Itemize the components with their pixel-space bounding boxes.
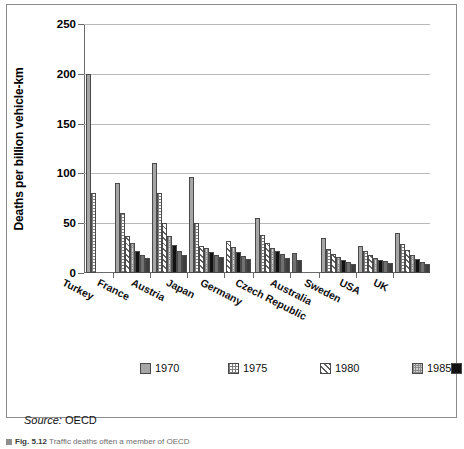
legend-swatch-icon xyxy=(320,363,331,374)
bar-group xyxy=(356,24,393,273)
bar xyxy=(246,259,251,273)
plot-area: 050100150200250 xyxy=(84,24,430,273)
legend-swatch-icon xyxy=(451,363,462,374)
bar-group xyxy=(113,24,150,273)
bar-group xyxy=(393,24,430,273)
y-axis-title-text: Deaths per billion vehicle-km xyxy=(12,67,26,230)
y-axis-tick-label: 150 xyxy=(57,118,76,130)
bar-group xyxy=(290,24,319,273)
legend-swatch-icon xyxy=(412,363,423,374)
bar-group xyxy=(187,24,224,273)
caption-text: Traffic deaths often a member of OECD xyxy=(49,437,190,446)
bar-group xyxy=(150,24,187,273)
caption-marker-icon xyxy=(6,439,12,445)
bar xyxy=(297,260,302,273)
figure-caption: Fig. 5.12 Traffic deaths often a member … xyxy=(6,437,190,446)
legend-label: 1980 xyxy=(335,362,359,374)
source-note: Source: OECD xyxy=(24,414,97,426)
bar-groups xyxy=(84,24,430,273)
y-axis-tick xyxy=(78,273,84,274)
y-axis-tick-label: 50 xyxy=(63,217,76,229)
x-axis-labels: TurkeyFranceAustriaJapanGermanyCzech Rep… xyxy=(84,276,430,336)
bar-group xyxy=(84,24,113,273)
source-label: Source: xyxy=(24,414,62,426)
bar xyxy=(91,193,96,273)
y-axis-tick-label: 200 xyxy=(57,68,76,80)
bar-group xyxy=(224,24,253,273)
x-axis-label: UK xyxy=(372,276,391,294)
legend-label: 1975 xyxy=(243,362,267,374)
y-axis-title: Deaths per billion vehicle-km xyxy=(10,24,28,273)
bar xyxy=(425,264,430,273)
legend-item: 1980 xyxy=(320,362,412,374)
legend-label: 1970 xyxy=(155,362,179,374)
y-axis-tick-label: 100 xyxy=(57,167,76,179)
legend-item: 1990 xyxy=(451,362,464,374)
legend-swatch-icon xyxy=(140,363,151,374)
bar-group xyxy=(253,24,290,273)
legend-item: 1975 xyxy=(228,362,320,374)
bar-group xyxy=(319,24,356,273)
chart-legend: 1970197519801985199019952000 xyxy=(140,360,440,376)
caption-number: Fig. 5.12 xyxy=(15,437,47,446)
y-axis-tick-label: 250 xyxy=(57,18,76,30)
legend-item: 1970 xyxy=(140,362,228,374)
y-axis-tick-label: 0 xyxy=(70,267,76,279)
x-axis-label: France xyxy=(95,276,131,302)
figure-root: Deaths per billion vehicle-km 0501001502… xyxy=(0,0,464,449)
legend-item: 1985 xyxy=(412,362,451,374)
legend-label: 1985 xyxy=(427,362,451,374)
x-axis-label: Japan xyxy=(164,276,196,300)
source-value: OECD xyxy=(65,414,97,426)
x-axis-label: Austria xyxy=(130,276,168,303)
legend-swatch-icon xyxy=(228,363,239,374)
